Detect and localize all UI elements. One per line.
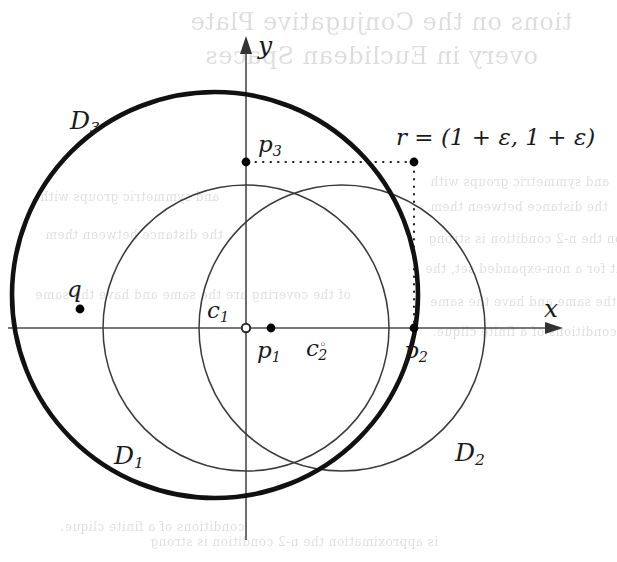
point-r-marker <box>410 158 419 167</box>
label-c2-letter: c <box>306 335 319 361</box>
figure-canvas <box>0 0 617 562</box>
label-d1-letter: D <box>114 441 134 470</box>
label-r-equation: r = (1 + ε, 1 + ε) <box>396 126 595 149</box>
label-q: q <box>67 278 82 301</box>
math-figure: tions on the Conjugative Plate overy in … <box>0 0 617 562</box>
label-d1: D1 <box>114 443 144 471</box>
point-c1-marker <box>242 324 250 332</box>
label-d2-letter: D <box>455 438 475 467</box>
point-p2-marker <box>410 324 419 333</box>
label-c1-letter: c <box>207 297 220 323</box>
x-axis-arrowhead <box>545 322 563 334</box>
y-axis-label: y <box>258 33 272 58</box>
point-p3-marker <box>242 158 251 167</box>
label-p2-letter: p <box>404 337 419 363</box>
label-d1-subscript: 1 <box>134 454 144 472</box>
label-c2-subscript: 2 <box>318 347 327 363</box>
label-p3-subscript: 3 <box>273 143 282 159</box>
label-c1: c1 <box>207 299 229 324</box>
label-d3-subscript: 3 <box>90 119 100 137</box>
point-p1-marker <box>267 324 276 333</box>
x-axis-label: x <box>544 296 558 321</box>
points-group <box>76 158 419 333</box>
label-d2-subscript: 2 <box>475 451 485 469</box>
label-p1-letter: p <box>257 337 272 363</box>
label-c2-open: c◦2 <box>306 337 327 362</box>
label-p2: p2 <box>404 339 428 364</box>
label-p3: p3 <box>258 133 282 158</box>
label-p2-subscript: 2 <box>419 349 428 365</box>
label-d3-letter: D <box>70 106 90 135</box>
label-d2: D2 <box>455 440 485 468</box>
label-p1: p1 <box>257 339 281 364</box>
label-p3-letter: p <box>258 131 273 157</box>
label-p1-subscript: 1 <box>272 349 281 365</box>
label-d3: D3 <box>70 108 100 136</box>
point-q-marker <box>76 305 85 314</box>
y-axis-arrowhead <box>240 36 252 54</box>
label-c1-subscript: 1 <box>220 309 229 325</box>
